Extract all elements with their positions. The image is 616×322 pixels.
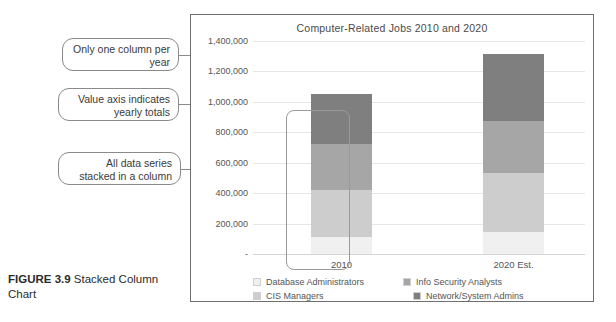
gridline bbox=[253, 41, 585, 42]
y-tick-label: 200,000 bbox=[215, 219, 248, 229]
legend-swatch-icon bbox=[253, 292, 261, 300]
stack-segment[interactable] bbox=[483, 54, 544, 121]
legend-item[interactable]: CIS Managers bbox=[253, 291, 413, 301]
y-tick-label: 600,000 bbox=[215, 158, 248, 168]
plot-area: -200,000400,000600,000800,0001,000,0001,… bbox=[253, 41, 585, 255]
x-axis-baseline bbox=[253, 254, 585, 255]
y-tick-label: - bbox=[245, 249, 248, 259]
figure-number: FIGURE 3.9 bbox=[8, 273, 71, 285]
stack-segment[interactable] bbox=[311, 237, 372, 254]
legend-label: Database Administrators bbox=[266, 277, 364, 287]
stack-segment[interactable] bbox=[311, 190, 372, 237]
y-tick-label: 1,200,000 bbox=[208, 66, 248, 76]
callout-only-one-column: Only one column per year bbox=[62, 38, 179, 71]
y-tick-label: 400,000 bbox=[215, 188, 248, 198]
legend-row-1: Database AdministratorsInfo Security Ana… bbox=[253, 277, 573, 287]
stacked-column-2010[interactable] bbox=[311, 94, 372, 254]
chart-title: Computer-Related Jobs 2010 and 2020 bbox=[191, 22, 593, 34]
legend-row-2: CIS ManagersNetwork/System Admins bbox=[253, 291, 573, 301]
stack-segment[interactable] bbox=[483, 173, 544, 232]
callout-all-data-series: All data series stacked in a column bbox=[58, 152, 181, 185]
legend-swatch-icon bbox=[413, 292, 421, 300]
stack-segment[interactable] bbox=[311, 94, 372, 144]
legend-item[interactable]: Network/System Admins bbox=[413, 291, 573, 301]
legend-label: Network/System Admins bbox=[426, 291, 524, 301]
stack-segment[interactable] bbox=[483, 121, 544, 173]
stack-segment[interactable] bbox=[311, 144, 372, 190]
legend-item[interactable]: Database Administrators bbox=[253, 277, 403, 287]
chart-legend: Database AdministratorsInfo Security Ana… bbox=[253, 277, 573, 305]
legend-swatch-icon bbox=[253, 278, 261, 286]
legend-label: CIS Managers bbox=[266, 291, 324, 301]
y-tick-label: 800,000 bbox=[215, 127, 248, 137]
stacked-column-2020[interactable] bbox=[483, 54, 544, 254]
figure-caption: FIGURE 3.9 Stacked Column Chart bbox=[8, 272, 188, 302]
legend-item[interactable]: Info Security Analysts bbox=[403, 277, 553, 287]
x-axis-label-2010: 2010 bbox=[311, 259, 372, 270]
y-tick-label: 1,000,000 bbox=[208, 97, 248, 107]
stack-segment[interactable] bbox=[483, 232, 544, 254]
legend-swatch-icon bbox=[403, 278, 411, 286]
y-tick-label: 1,400,000 bbox=[208, 36, 248, 46]
legend-label: Info Security Analysts bbox=[416, 277, 502, 287]
callout-value-axis: Value axis indicates yearly totals bbox=[58, 88, 179, 121]
chart-container: Computer-Related Jobs 2010 and 2020 -200… bbox=[190, 14, 594, 302]
x-axis-label-2020: 2020 Est. bbox=[483, 259, 544, 270]
